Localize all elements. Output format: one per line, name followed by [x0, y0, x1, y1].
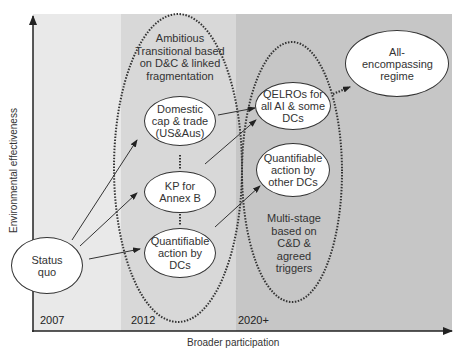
node-kp-annex-b: KP for Annex B [144, 171, 216, 213]
x-axis-label: Broader participation [187, 337, 279, 348]
node-quantifiable-action-other-dcs: Quantifiable action by other DCs [256, 143, 330, 197]
y-axis-label: Environmental effectiveness [8, 106, 19, 236]
node-domestic-cap-trade: Domestic cap & trade (US&Aus) [144, 96, 216, 146]
transitional-group-label: Ambitious Transitional based on D&C & li… [132, 32, 228, 82]
node-quantifiable-action-dcs: Quantifiable action by DCs [144, 228, 216, 278]
node-status-quo: Status quo [11, 237, 83, 294]
node-all-encompassing-regime: All-encompassing regime [345, 30, 449, 97]
multistage-group-label: Multi-stage based on C&D & agreed trigge… [262, 212, 326, 275]
node-qelros: QELROs for all AI & some DCs [255, 82, 331, 130]
